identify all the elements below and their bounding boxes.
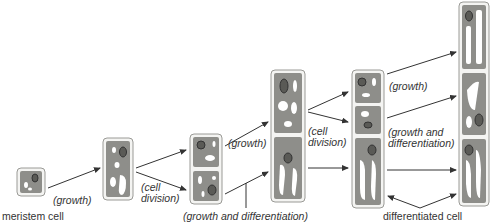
dividing-column [352, 70, 384, 208]
growth-differentiation-label-right-b: differentiation) [388, 138, 455, 149]
differentiated-cell-label: differentiated cell [383, 211, 462, 222]
cell-division-label-1b: division) [141, 193, 180, 204]
meristem-cell [17, 168, 45, 196]
growth-label-2: (growth) [228, 138, 267, 149]
growth-differentiation-label-bottom: (growth and differentiation) [183, 211, 308, 222]
cell-differentiation-diagram [0, 0, 490, 224]
differentiated-column [459, 2, 489, 206]
growth-label-1: (growth) [53, 195, 92, 206]
elongated-cells [271, 70, 305, 202]
divided-cells [190, 134, 222, 204]
growth-label-3: (growth) [389, 81, 428, 92]
cell-division-label-2b: division) [308, 137, 347, 148]
meristem-cell-label: meristem cell [2, 211, 64, 222]
grown-cell [103, 138, 133, 200]
